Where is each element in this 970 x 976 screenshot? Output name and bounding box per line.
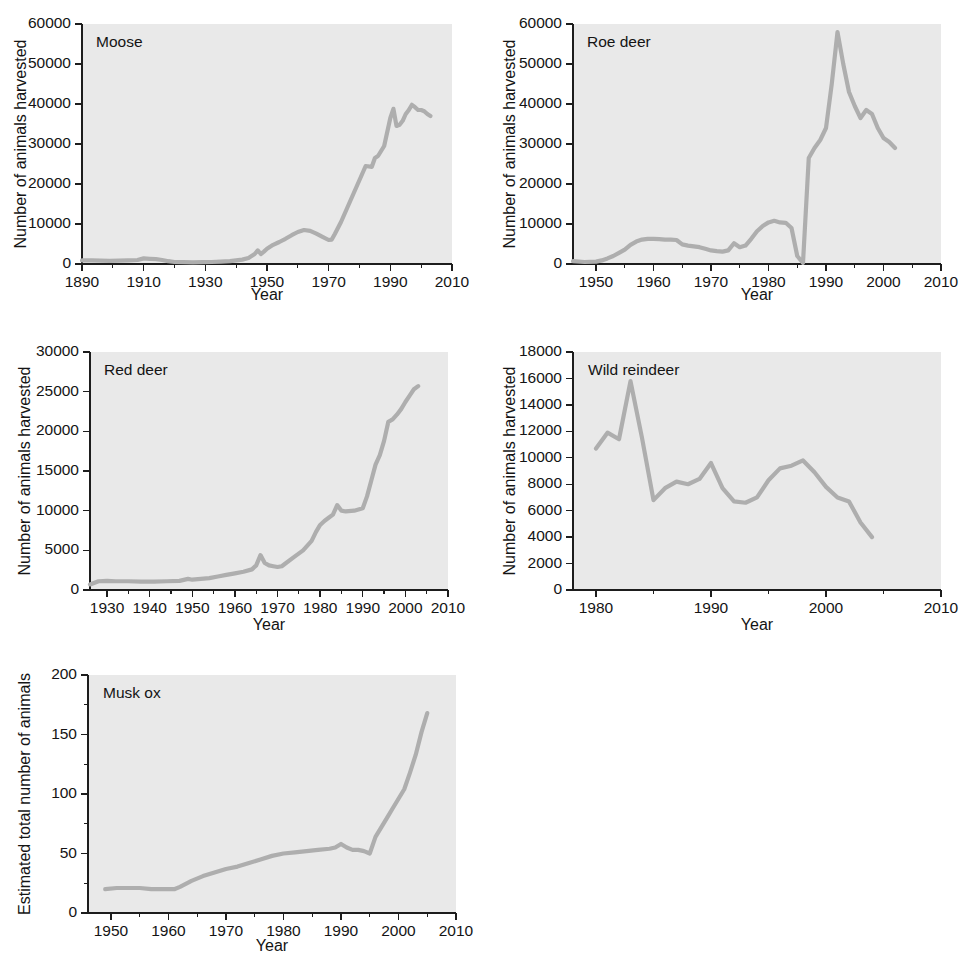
roe-deer-ytick-label: 50000 [519, 54, 562, 71]
moose-xtick-label: 1970 [311, 273, 346, 290]
moose-xtick-label: 2010 [435, 273, 470, 290]
red-deer-xtick-label: 1950 [175, 599, 210, 616]
panel-wild-reindeer: 1980199020002010020004000600080001000012… [485, 330, 970, 655]
red-deer-y-axis-title: Number of animals harvested [16, 367, 33, 576]
roe-deer-xtick-label: 2000 [866, 273, 901, 290]
panel-red-deer: 1930194019501960197019801990200020100500… [0, 330, 480, 655]
roe-deer-ytick-label: 30000 [519, 134, 562, 151]
roe-deer-xtick-label: 1950 [579, 273, 614, 290]
red-deer-xtick-label: 1980 [303, 599, 338, 616]
musk-ox-ytick-label: 50 [60, 844, 78, 861]
moose-xtick-label: 1990 [373, 273, 408, 290]
musk-ox-chart-svg: 1950196019701980199020002010050100150200… [0, 655, 480, 976]
moose-plot-background [82, 24, 452, 264]
moose-y-axis-title: Number of animals harvested [12, 40, 29, 249]
moose-x-axis-title: Year [251, 286, 284, 303]
musk-ox-x-axis-title: Year [256, 937, 289, 954]
wild-reindeer-chart-svg: 1980199020002010020004000600080001000012… [485, 330, 970, 655]
red-deer-xtick-label: 1930 [90, 599, 125, 616]
musk-ox-xtick-label: 1950 [94, 922, 129, 939]
musk-ox-ytick-label: 0 [68, 903, 77, 920]
moose-ytick-label: 50000 [28, 54, 71, 71]
musk-ox-xtick-label: 2000 [381, 922, 416, 939]
musk-ox-xtick-label: 1990 [324, 922, 359, 939]
musk-ox-xtick-label: 1960 [151, 922, 186, 939]
red-deer-x-axis-title: Year [253, 616, 286, 633]
panel-label-roe-deer: Roe deer [587, 33, 651, 50]
red-deer-ytick-label: 10000 [36, 501, 79, 518]
wild-reindeer-ytick-label: 0 [553, 580, 562, 597]
wild-reindeer-xtick-label: 2000 [809, 599, 844, 616]
roe-deer-x-axis-title: Year [741, 286, 774, 303]
panel-label-moose: Moose [96, 33, 143, 50]
moose-ytick-label: 0 [62, 254, 71, 271]
moose-chart-svg: 1890191019301950197019902010010000200003… [0, 0, 480, 320]
red-deer-ytick-label: 0 [70, 580, 79, 597]
panel-roe-deer: 1950196019701980199020002010010000200003… [485, 0, 970, 320]
roe-deer-ytick-label: 10000 [519, 214, 562, 231]
roe-deer-ytick-label: 20000 [519, 174, 562, 191]
panel-label-musk-ox: Musk ox [103, 684, 161, 701]
moose-ytick-label: 30000 [28, 134, 71, 151]
red-deer-chart-svg: 1930194019501960197019801990200020100500… [0, 330, 480, 655]
roe-deer-xtick-label: 2010 [924, 273, 959, 290]
roe-deer-plot-background [573, 24, 941, 264]
red-deer-ytick-label: 25000 [36, 382, 79, 399]
roe-deer-xtick-label: 1970 [694, 273, 729, 290]
wild-reindeer-y-axis-title: Number of animals harvested [501, 367, 518, 576]
red-deer-xtick-label: 1960 [218, 599, 253, 616]
wild-reindeer-ytick-label: 16000 [519, 369, 562, 386]
roe-deer-xtick-label: 1990 [809, 273, 844, 290]
wild-reindeer-xtick-label: 1990 [694, 599, 729, 616]
moose-ytick-label: 60000 [28, 14, 71, 31]
wild-reindeer-xtick-label: 2010 [924, 599, 959, 616]
moose-ytick-label: 40000 [28, 94, 71, 111]
wild-reindeer-ytick-label: 4000 [528, 527, 563, 544]
roe-deer-ytick-label: 0 [553, 254, 562, 271]
roe-deer-y-axis-title: Number of animals harvested [501, 40, 518, 249]
moose-xtick-label: 1930 [188, 273, 223, 290]
musk-ox-xtick-label: 2010 [439, 922, 474, 939]
wild-reindeer-ytick-label: 12000 [519, 421, 562, 438]
red-deer-xtick-label: 2000 [388, 599, 423, 616]
wild-reindeer-ytick-label: 8000 [528, 474, 563, 491]
red-deer-plot-background [90, 352, 448, 590]
red-deer-xtick-label: 1970 [260, 599, 295, 616]
moose-xtick-label: 1890 [65, 273, 100, 290]
red-deer-ytick-label: 30000 [36, 342, 79, 359]
roe-deer-ytick-label: 40000 [519, 94, 562, 111]
multi-panel-figure: 1890191019301950197019902010010000200003… [0, 0, 970, 976]
wild-reindeer-ytick-label: 10000 [519, 448, 562, 465]
panel-label-red-deer: Red deer [104, 361, 168, 378]
moose-ytick-label: 10000 [28, 214, 71, 231]
musk-ox-ytick-label: 100 [51, 784, 77, 801]
musk-ox-ytick-label: 200 [51, 665, 77, 682]
red-deer-xtick-label: 2010 [431, 599, 466, 616]
musk-ox-ytick-label: 150 [51, 725, 77, 742]
musk-ox-y-axis-title: Estimated total number of animals [16, 673, 33, 915]
musk-ox-xtick-label: 1970 [209, 922, 244, 939]
moose-xtick-label: 1910 [126, 273, 161, 290]
wild-reindeer-ytick-label: 6000 [528, 501, 563, 518]
panel-label-wild-reindeer: Wild reindeer [588, 361, 679, 378]
red-deer-xtick-label: 1940 [132, 599, 167, 616]
wild-reindeer-xtick-label: 1980 [579, 599, 614, 616]
red-deer-ytick-label: 5000 [45, 540, 80, 557]
red-deer-xtick-label: 1990 [346, 599, 381, 616]
roe-deer-xtick-label: 1960 [636, 273, 671, 290]
panel-moose: 1890191019301950197019902010010000200003… [0, 0, 480, 320]
wild-reindeer-x-axis-title: Year [741, 616, 774, 633]
red-deer-ytick-label: 20000 [36, 421, 79, 438]
wild-reindeer-ytick-label: 14000 [519, 395, 562, 412]
wild-reindeer-ytick-label: 18000 [519, 342, 562, 359]
roe-deer-ytick-label: 60000 [519, 14, 562, 31]
red-deer-ytick-label: 15000 [36, 461, 79, 478]
moose-ytick-label: 20000 [28, 174, 71, 191]
wild-reindeer-ytick-label: 2000 [528, 554, 563, 571]
panel-musk-ox: 1950196019701980199020002010050100150200… [0, 655, 480, 976]
roe-deer-chart-svg: 1950196019701980199020002010010000200003… [485, 0, 970, 320]
